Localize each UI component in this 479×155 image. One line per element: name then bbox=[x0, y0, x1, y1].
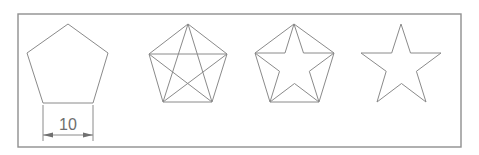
star-step-4 bbox=[361, 24, 441, 102]
pentagon-step-1 bbox=[27, 24, 108, 103]
arrowhead-right-icon bbox=[83, 133, 93, 138]
star-inside-pentagon-step-3 bbox=[255, 24, 334, 102]
dimension-annotation: 10 bbox=[43, 105, 93, 141]
pentagon-outline bbox=[255, 24, 334, 102]
arrowhead-left-icon bbox=[43, 133, 53, 138]
dimension-label: 10 bbox=[59, 116, 77, 133]
diagram-frame bbox=[18, 14, 461, 147]
pentagon-with-diagonals-step-2 bbox=[149, 24, 227, 102]
diagram-canvas: 10 bbox=[0, 0, 479, 155]
